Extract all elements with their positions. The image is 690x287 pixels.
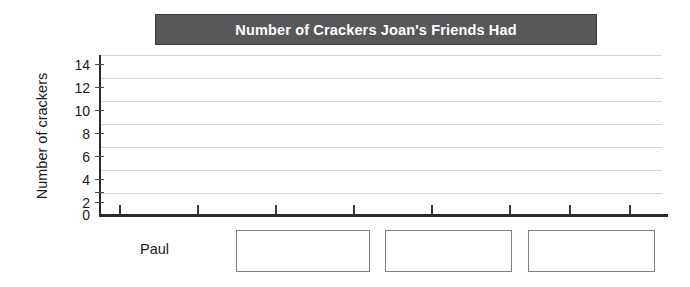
- y-tick-label-group: 14 12 10 8 6 4 2 0: [52, 0, 90, 287]
- y-tick-label-6: 6: [56, 150, 90, 164]
- gridline-8: [100, 124, 662, 125]
- x-tick-mark-4: [353, 205, 355, 215]
- x-tick-mark-5: [431, 205, 433, 215]
- y-tick-mark-1: [95, 202, 104, 203]
- chart-title-banner: Number of Crackers Joan's Friends Had: [155, 14, 597, 45]
- x-axis-label-paul: Paul: [140, 241, 169, 257]
- x-axis-line: [99, 214, 668, 217]
- x-tick-mark-1: [119, 205, 121, 215]
- chart-title-text: Number of Crackers Joan's Friends Had: [235, 22, 516, 38]
- x-tick-mark-6: [509, 205, 511, 215]
- answer-box-1[interactable]: [236, 230, 370, 272]
- answer-box-3[interactable]: [528, 230, 655, 272]
- x-tick-mark-8: [629, 205, 631, 215]
- gridline-10: [100, 101, 662, 102]
- plot-area: [100, 55, 662, 215]
- y-tick-mark-10: [95, 110, 104, 111]
- cracker-bar-chart-worksheet: { "chart_data": { "type": "bar", "title"…: [0, 0, 690, 287]
- y-tick-label-12: 12: [56, 81, 90, 95]
- y-axis-title: Number of crackers: [34, 51, 50, 221]
- y-tick-label-14: 14: [56, 58, 90, 72]
- y-tick-label-4: 4: [56, 173, 90, 187]
- y-tick-mark-6: [95, 156, 104, 157]
- y-tick-label-10: 10: [56, 104, 90, 118]
- y-tick-mark-14: [95, 64, 104, 65]
- y-tick-mark-3: [95, 192, 104, 193]
- gridline-14: [100, 55, 662, 56]
- y-tick-mark-8: [95, 133, 104, 134]
- y-tick-label-8: 8: [56, 127, 90, 141]
- y-tick-label-0: 0: [56, 208, 90, 222]
- x-tick-mark-3: [275, 205, 277, 215]
- x-tick-mark-7: [569, 205, 571, 215]
- gridline-4: [100, 170, 662, 171]
- answer-box-2[interactable]: [385, 230, 512, 272]
- y-tick-mark-12: [95, 87, 104, 88]
- x-tick-mark-2: [197, 205, 199, 215]
- gridline-6: [100, 147, 662, 148]
- gridline-12: [100, 78, 662, 79]
- y-tick-mark-4: [95, 179, 104, 180]
- gridline-2: [100, 193, 662, 194]
